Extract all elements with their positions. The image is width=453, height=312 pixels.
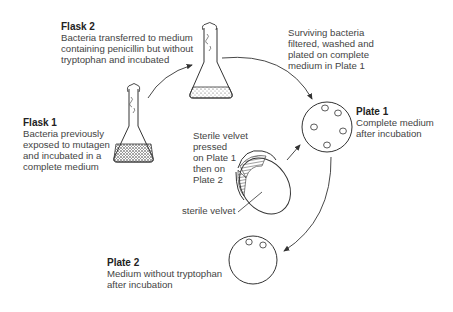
flask-2-icon	[190, 23, 232, 99]
plate-2-label: Plate 2 Medium without tryptophan after …	[107, 257, 222, 290]
arrow-velvet-to-plate1	[287, 145, 300, 160]
arrow-plate1-to-plate2	[284, 157, 331, 251]
velvet-step-line: pressed	[193, 141, 248, 152]
velvet-step-line: on Plate 1	[193, 152, 248, 163]
flask-2-label: Flask 2 Bacteria transferred to medium c…	[61, 21, 193, 65]
plate-2-title: Plate 2	[107, 257, 222, 268]
flask-2-desc-line: tryptophan and incubated	[61, 54, 193, 65]
surviving-desc-line: medium in Plate 1	[288, 60, 374, 71]
arrow-flask1-to-flask2	[148, 65, 192, 98]
plate-1-title: Plate 1	[356, 106, 434, 117]
velvet-step-line: Sterile velvet	[193, 130, 248, 141]
flask-1-title: Flask 1	[23, 117, 110, 128]
plate-2-desc-line: after incubation	[107, 279, 222, 290]
surviving-bacteria-label: Surviving bacteria filtered, washed and …	[288, 27, 374, 71]
plate-1-desc-line: after incubation	[356, 128, 434, 139]
velvet-step-label: Sterile velvet pressed on Plate 1 then o…	[193, 130, 248, 185]
flask-2-desc-line: containing penicillin but without	[61, 43, 193, 54]
flask-1-desc-line: Bacteria previously	[23, 128, 110, 139]
plate-1-label: Plate 1 Complete medium after incubation	[356, 106, 434, 139]
surviving-desc-line: filtered, washed and	[288, 38, 374, 49]
velvet-step-line: Plate 2	[193, 174, 248, 185]
flask-1-icon	[114, 84, 153, 163]
flask-1-desc-line: exposed to mutagen	[23, 139, 110, 150]
surviving-desc-line: plated on complete	[288, 49, 374, 60]
flask-2-title: Flask 2	[61, 21, 193, 32]
velvet-step-line: then on	[193, 163, 248, 174]
plate-2-desc-line: Medium without tryptophan	[107, 268, 222, 279]
plate-2-icon	[229, 236, 277, 284]
plate-1-desc-line: Complete medium	[356, 117, 434, 128]
flask-2-desc-line: Bacteria transferred to medium	[61, 32, 193, 43]
flask-1-desc-line: complete medium	[23, 161, 110, 172]
surviving-desc-line: Surviving bacteria	[288, 27, 374, 38]
flask-1-desc-line: and incubated in a	[23, 150, 110, 161]
sterile-velvet-label: sterile velvet	[182, 205, 235, 216]
flask-1-label: Flask 1 Bacteria previously exposed to m…	[23, 117, 110, 172]
plate-1-icon	[302, 102, 352, 152]
